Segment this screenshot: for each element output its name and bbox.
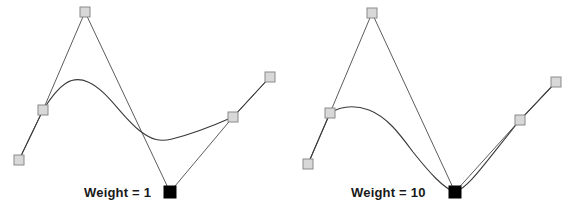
control-point-1[interactable] xyxy=(325,108,335,118)
spline-curve xyxy=(308,82,556,192)
control-polygon xyxy=(308,13,556,192)
control-point-2[interactable] xyxy=(80,7,90,17)
control-point-0[interactable] xyxy=(303,159,313,169)
control-point-5[interactable] xyxy=(265,72,275,82)
control-point-4[interactable] xyxy=(515,115,525,125)
control-point-1[interactable] xyxy=(38,105,48,115)
control-point-0[interactable] xyxy=(14,155,24,165)
control-point-4[interactable] xyxy=(228,112,238,122)
control-point-5[interactable] xyxy=(551,77,561,87)
spline-diagram-weight-1 xyxy=(0,0,287,211)
control-polygon xyxy=(19,12,270,192)
control-point-3-weighted[interactable] xyxy=(164,186,176,198)
panel-weight-10: Weight = 10 xyxy=(287,0,574,211)
control-point-3-weighted[interactable] xyxy=(449,186,461,198)
weight-comparison-figure: Weight = 1 Weight = 10 xyxy=(0,0,575,211)
spline-diagram-weight-10 xyxy=(287,0,574,211)
panel-weight-1: Weight = 1 xyxy=(0,0,287,211)
caption-weight-1: Weight = 1 xyxy=(84,186,151,199)
caption-weight-10: Weight = 10 xyxy=(351,186,426,199)
control-point-2[interactable] xyxy=(367,8,377,18)
